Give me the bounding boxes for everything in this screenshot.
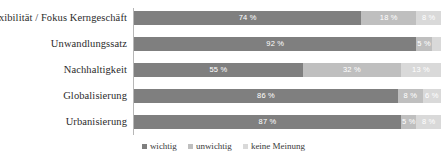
- stacked-bar: 74 % 18 % 8 %: [134, 11, 441, 25]
- category-label: Nachhaltigkeit: [0, 62, 127, 78]
- stacked-bar-chart: Flexibilität / Fokus Kerngeschäft 74 % 1…: [0, 0, 447, 163]
- chart-row: Urbanisierung 87 % 5 % 8 %: [0, 114, 447, 130]
- legend-label: keine Meinung: [251, 141, 305, 151]
- chart-row: Globalisierung 86 % 8 % 6 %: [0, 88, 447, 104]
- bar-segment-unwichtig[interactable]: 18 %: [361, 11, 416, 25]
- category-label: Urbanisierung: [0, 114, 127, 130]
- bar-segment-keine-meinung[interactable]: 3 %: [432, 37, 441, 51]
- stacked-bar: 86 % 8 % 6 %: [134, 89, 441, 103]
- legend-item-unwichtig[interactable]: unwichtig: [188, 141, 232, 151]
- bar-segment-value: 86 %: [257, 92, 275, 100]
- legend-swatch-icon: [188, 144, 193, 149]
- bar-segment-value: 6 %: [425, 92, 439, 100]
- legend-swatch-icon: [243, 144, 248, 149]
- bar-segment-keine-meinung[interactable]: 8 %: [416, 11, 441, 25]
- legend-swatch-icon: [142, 144, 147, 149]
- bar-segment-value: 18 %: [380, 14, 398, 22]
- chart-row: Flexibilität / Fokus Kerngeschäft 74 % 1…: [0, 10, 447, 26]
- bar-segment-value: 5 %: [402, 118, 416, 126]
- bar-segment-value: 87 %: [259, 118, 277, 126]
- bar-segment-keine-meinung[interactable]: 8 %: [416, 115, 441, 129]
- chart-plot-area: Flexibilität / Fokus Kerngeschäft 74 % 1…: [0, 0, 447, 135]
- legend-item-keine-meinung[interactable]: keine Meinung: [243, 141, 305, 151]
- bar-segment-unwichtig[interactable]: 5 %: [401, 115, 416, 129]
- bar-segment-keine-meinung[interactable]: 13 %: [401, 63, 441, 77]
- bar-segment-value: 55 %: [209, 66, 227, 74]
- legend-label: unwichtig: [196, 141, 232, 151]
- bar-segment-wichtig[interactable]: 92 %: [134, 37, 416, 51]
- bar-segment-value: 74 %: [239, 14, 257, 22]
- bar-segment-value: 8 %: [422, 118, 436, 126]
- stacked-bar: 55 % 32 % 13 %: [134, 63, 441, 77]
- bar-segment-wichtig[interactable]: 86 %: [134, 89, 398, 103]
- bar-segment-value: 13 %: [412, 66, 430, 74]
- category-label: Globalisierung: [0, 88, 127, 104]
- stacked-bar: 87 % 5 % 8 %: [134, 115, 441, 129]
- bar-segment-value: 92 %: [266, 40, 284, 48]
- chart-legend: wichtig unwichtig keine Meinung: [0, 141, 447, 151]
- chart-row: Unwandlungssatz 92 % 5 % 3 %: [0, 36, 447, 52]
- category-label: Flexibilität / Fokus Kerngeschäft: [0, 10, 127, 26]
- bar-segment-value: 32 %: [343, 66, 361, 74]
- bar-segment-unwichtig[interactable]: 5 %: [416, 37, 431, 51]
- bar-segment-value: 8 %: [404, 92, 418, 100]
- bar-segment-wichtig[interactable]: 55 %: [134, 63, 303, 77]
- legend-item-wichtig[interactable]: wichtig: [142, 141, 177, 151]
- bar-segment-wichtig[interactable]: 87 %: [134, 115, 401, 129]
- category-label: Unwandlungssatz: [0, 36, 127, 52]
- bar-segment-keine-meinung[interactable]: 6 %: [423, 89, 441, 103]
- bar-segment-unwichtig[interactable]: 8 %: [398, 89, 423, 103]
- legend-label: wichtig: [150, 141, 177, 151]
- chart-row: Nachhaltigkeit 55 % 32 % 13 %: [0, 62, 447, 78]
- bar-segment-value: 8 %: [422, 14, 436, 22]
- bar-segment-value: 5 %: [417, 40, 431, 48]
- bar-segment-wichtig[interactable]: 74 %: [134, 11, 361, 25]
- bar-segment-unwichtig[interactable]: 32 %: [303, 63, 401, 77]
- stacked-bar: 92 % 5 % 3 %: [134, 37, 441, 51]
